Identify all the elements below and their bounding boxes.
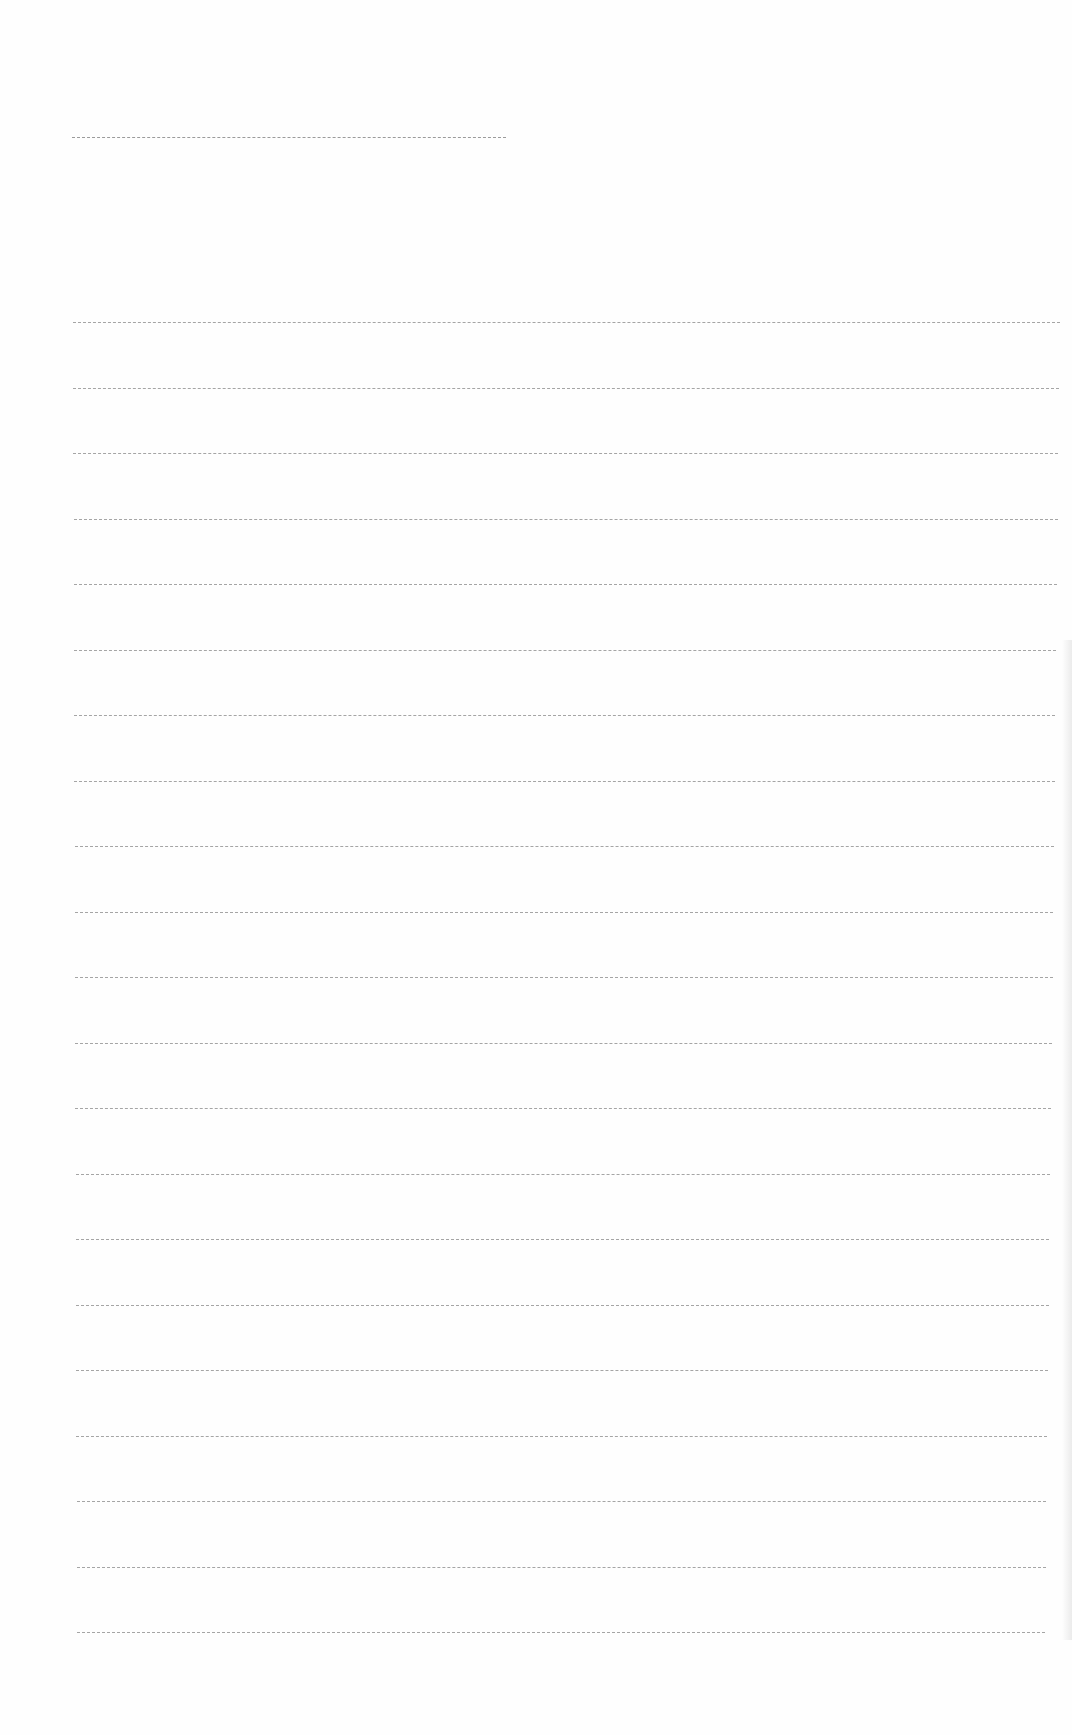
ruled-line — [76, 1174, 1051, 1176]
ruled-line — [77, 1501, 1047, 1503]
ruled-line — [76, 1305, 1049, 1307]
ruled-line — [77, 1567, 1046, 1569]
ruled-line — [76, 1239, 1050, 1241]
ruled-line — [75, 1108, 1051, 1110]
ruled-line — [75, 977, 1053, 979]
header-line — [72, 137, 506, 139]
ruled-paper-page — [0, 0, 1072, 1735]
ruled-line — [76, 1370, 1048, 1372]
ruled-line — [75, 912, 1053, 914]
ruled-line — [77, 1632, 1045, 1634]
ruled-line — [75, 1043, 1052, 1045]
ruled-line — [75, 846, 1054, 848]
ruled-line — [74, 781, 1054, 783]
ruled-line — [74, 519, 1058, 521]
page-edge-shadow — [1062, 640, 1072, 1640]
ruled-line — [73, 322, 1060, 324]
ruled-line — [76, 1436, 1047, 1438]
ruled-line — [74, 584, 1057, 586]
ruled-line — [73, 388, 1059, 390]
ruled-line — [74, 715, 1055, 717]
ruled-line — [73, 453, 1058, 455]
ruled-line — [74, 650, 1056, 652]
